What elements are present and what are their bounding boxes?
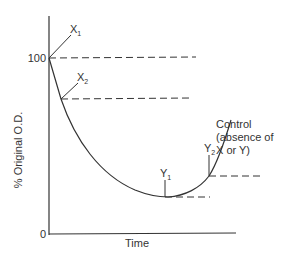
od-time-diagram: % Original O.D. 100 0 Time X1 X2 Y1 Y2 C… <box>0 0 287 258</box>
x2-reference-line <box>61 98 192 99</box>
x-axis-label: Time <box>125 237 149 249</box>
x1-reference-line <box>49 57 196 58</box>
y1-label: Y1 <box>160 167 171 181</box>
y2-label: Y2 <box>204 142 215 156</box>
x1-label: X1 <box>70 23 81 37</box>
x-axis <box>49 233 236 234</box>
x2-leader-line <box>61 83 78 99</box>
y-axis-label: % Original O.D. <box>12 112 24 188</box>
control-curve-label: Control (absence of X or Y) <box>216 118 277 156</box>
x1-leader-line <box>49 35 71 58</box>
x2-label: X2 <box>77 71 88 85</box>
y-tick-100: 100 <box>28 52 46 64</box>
y-tick-0: 0 <box>40 228 46 240</box>
